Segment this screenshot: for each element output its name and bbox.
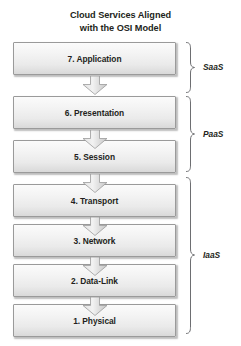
layer-label: 2. Data-Link	[71, 276, 118, 286]
arrow-down-icon	[82, 217, 108, 236]
arrow-down-icon	[82, 76, 108, 95]
layer-label: 1. Physical	[73, 316, 116, 326]
layer-label: 5. Session	[74, 152, 115, 162]
layer-label: 3. Network	[74, 236, 116, 246]
arrow-down-icon	[82, 174, 108, 193]
arrow-down-icon	[82, 257, 108, 276]
layer-label: 4. Transport	[71, 196, 118, 206]
layer-stack: 7. Application 6. Presentation 5. Sessio…	[0, 0, 241, 346]
arrow-down-icon	[82, 130, 108, 149]
layer-box-presentation[interactable]: 6. Presentation	[13, 96, 176, 129]
layer-label: 6. Presentation	[65, 108, 124, 118]
layer-label: 7. Application	[68, 54, 122, 64]
arrow-down-icon	[82, 297, 108, 316]
layer-box-application[interactable]: 7. Application	[13, 42, 176, 75]
osi-cloud-diagram: Cloud Services Aligned with the OSI Mode…	[0, 0, 241, 346]
